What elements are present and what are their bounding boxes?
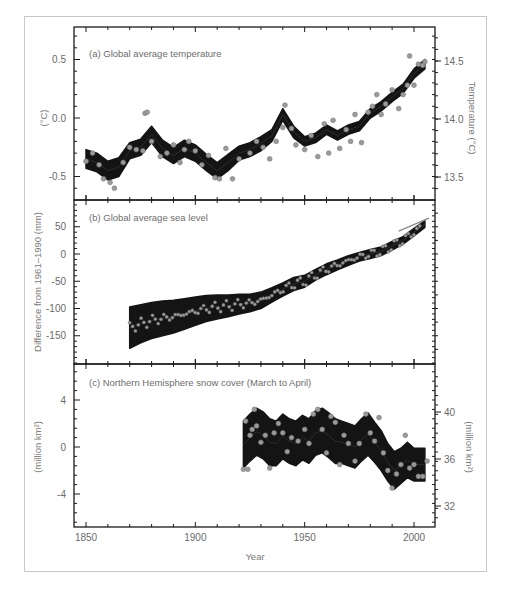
y-right-tick-label: 32 <box>444 501 456 512</box>
temperature-uncertainty-band <box>86 60 425 181</box>
y-tick-label: 0 <box>60 442 66 453</box>
y-tick-label: -0.5 <box>49 171 67 182</box>
panel-a-ylabel: (°C) <box>38 110 49 127</box>
panel-a-temperature: (a) Global average temperature (°C) Temp… <box>38 48 478 191</box>
y-tick-label: 0.5 <box>52 54 66 65</box>
sea-level-uncertainty-band <box>130 221 425 348</box>
panel-a-ylabel-right: Temperature (°C) <box>467 82 478 155</box>
y-tick-label: -100 <box>46 303 66 314</box>
panel-c-title: (c) Northern Hemisphere snow cover (Marc… <box>89 377 311 388</box>
panel-c-ylabel-right: (million km²) <box>464 421 475 473</box>
y-right-tick-label: 14.0 <box>444 114 464 125</box>
temperature-annual-points <box>84 54 428 191</box>
y-right-tick-label: 13.5 <box>444 172 464 183</box>
panel-c-snow-cover: (c) Northern Hemisphere snow cover (Marc… <box>32 377 475 491</box>
y-tick-label: 0.0 <box>52 113 66 124</box>
x-tick-label: 1900 <box>184 532 207 543</box>
x-axis-title: Year <box>245 551 264 562</box>
y-tick-label: -4 <box>57 489 66 500</box>
y-tick-label: 50 <box>55 221 67 232</box>
y-tick-label: -150 <box>46 330 66 341</box>
panel-b-sea-level: (b) Global average sea level Difference … <box>32 212 429 352</box>
y-tick-label: -50 <box>52 276 67 287</box>
panel-b-ylabel: Difference from 1961–1990 (mm) <box>32 212 43 352</box>
panel-c-ylabel: (million km²) <box>32 421 43 473</box>
climate-indicators-chart: (a) Global average temperature (°C) Temp… <box>0 0 512 595</box>
y-tick-label: 0 <box>60 249 66 260</box>
x-tick-label: 1950 <box>294 532 317 543</box>
y-right-tick-label: 40 <box>444 407 456 418</box>
x-tick-label: 1850 <box>75 532 98 543</box>
y-right-tick-label: 36 <box>444 454 456 465</box>
y-tick-label: 4 <box>60 395 66 406</box>
panel-b-title: (b) Global average sea level <box>89 212 208 223</box>
x-tick-label: 2000 <box>403 532 426 543</box>
y-right-tick-label: 14.5 <box>444 56 464 67</box>
panel-a-title: (a) Global average temperature <box>89 48 222 59</box>
